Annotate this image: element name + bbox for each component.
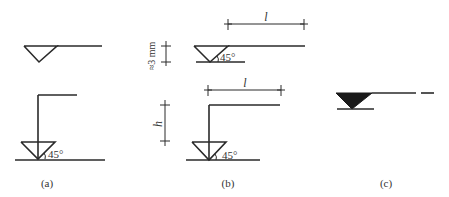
fillet-weld-symbol-simple: [24, 46, 102, 62]
caption-b: (b): [222, 177, 235, 190]
dimension-l-bottom: l: [204, 76, 285, 96]
dimension-h: h: [151, 100, 170, 146]
filled-fillet-weld-symbol: [336, 93, 434, 109]
fillet-weld-symbol-with-leader: 45°: [15, 95, 105, 160]
height-label-h: h: [151, 121, 165, 127]
length-label-l: l: [264, 10, 268, 24]
dimension-l-top: l: [224, 10, 308, 30]
fillet-weld-symbol-dimensioned: 45°: [194, 46, 305, 63]
panel-c: (c): [336, 93, 434, 190]
caption-a: (a): [41, 177, 54, 190]
height-label-3mm: ≈3 mm: [146, 42, 157, 71]
fillet-weld-symbol-with-leader-dimensioned: 45°: [186, 105, 280, 161]
angle-label: 45°: [48, 148, 63, 160]
length-label-l-bottom: l: [243, 76, 247, 90]
caption-c: (c): [380, 177, 393, 190]
angle-label-top: 45°: [220, 51, 235, 63]
dimension-3mm: ≈3 mm: [146, 41, 171, 70]
weld-symbol-diagram: 45° (a) l ≈3 mm 45°: [0, 0, 449, 197]
panel-a: 45° (a): [15, 46, 105, 190]
panel-b: l ≈3 mm 45° l h: [146, 10, 308, 190]
angle-label-bottom: 45°: [222, 149, 237, 161]
